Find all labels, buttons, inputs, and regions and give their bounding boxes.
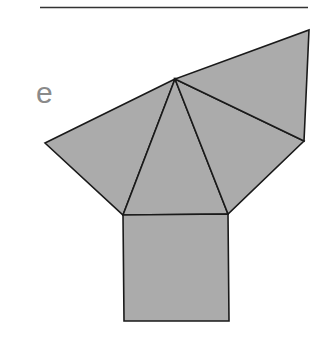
pyramid-net-diagram bbox=[0, 0, 327, 339]
pyramid-net-figure: e bbox=[0, 0, 327, 339]
figure-label: e bbox=[36, 78, 53, 108]
net-faces bbox=[45, 30, 309, 321]
square-base bbox=[123, 214, 229, 321]
